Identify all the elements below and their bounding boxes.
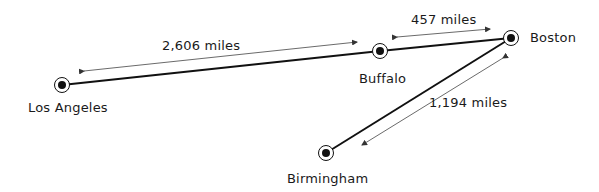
distance-label-boston-birmingham: 1,194 miles xyxy=(429,95,507,110)
city-label-los-angeles: Los Angeles xyxy=(28,100,108,115)
city-marker-boston-icon xyxy=(504,31,519,46)
city-label-birmingham: Birmingham xyxy=(287,171,368,186)
distance-label-la-buffalo: 2,606 miles xyxy=(162,38,240,53)
city-label-buffalo: Buffalo xyxy=(359,71,406,86)
city-label-boston: Boston xyxy=(530,30,576,45)
city-marker-buffalo-icon xyxy=(373,44,388,59)
city-marker-birmingham-icon xyxy=(319,146,334,161)
route-diagram xyxy=(0,0,599,192)
distance-label-buffalo-boston: 457 miles xyxy=(411,12,476,27)
distance-arrow-buffalo-boston xyxy=(397,29,490,37)
city-marker-los-angeles-icon xyxy=(55,78,70,93)
